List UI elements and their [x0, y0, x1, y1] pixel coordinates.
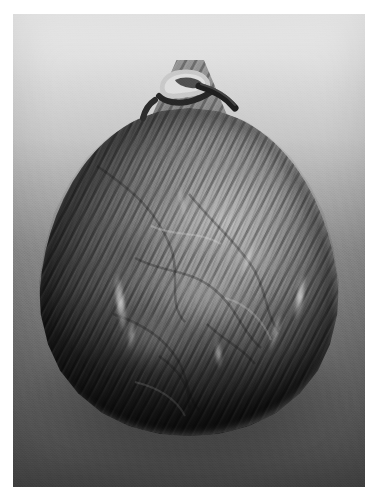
rim-light: [39, 108, 339, 436]
image-viewer: A single pear- or teardrop-shaped object…: [0, 0, 376, 504]
subject: [39, 60, 339, 436]
photograph: [13, 14, 365, 487]
subject-body: [39, 108, 339, 436]
knot-and-strap: [135, 60, 247, 122]
